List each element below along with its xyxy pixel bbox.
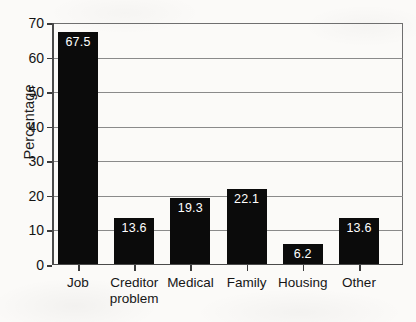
x-axis-line — [52, 264, 403, 266]
bar: 6.2 — [283, 244, 323, 265]
y-axis-tick-label: 50 — [28, 84, 44, 100]
y-axis-tick-label: 40 — [28, 119, 44, 135]
x-axis-category-label-line: problem — [79, 291, 189, 307]
bar-value-label: 13.6 — [339, 221, 379, 235]
x-axis-category-label: Other — [304, 275, 414, 291]
plot-frame-top-border — [52, 23, 403, 24]
y-axis-tick-label: 10 — [28, 222, 44, 238]
x-axis-tick-mark — [359, 265, 361, 271]
bar-value-label: 19.3 — [170, 201, 210, 215]
plot-area: 010203040506070 67.513.619.322.16.213.6 — [52, 23, 403, 265]
gridline — [52, 161, 403, 162]
y-axis-tick-label: 0 — [36, 257, 44, 273]
bar-value-label: 67.5 — [58, 35, 98, 49]
x-axis-tick-mark — [190, 265, 192, 271]
gridline — [52, 58, 403, 59]
y-axis-tick-mark — [47, 265, 52, 267]
plot-frame-right-border — [402, 23, 403, 265]
x-axis-tick-mark — [247, 265, 249, 271]
x-axis-category-label-line: Other — [304, 275, 414, 291]
x-axis-tick-mark — [303, 265, 305, 271]
gridline — [52, 92, 403, 93]
y-axis-line — [52, 23, 54, 265]
bar: 67.5 — [58, 32, 98, 265]
x-axis-tick-mark — [134, 265, 136, 271]
bar-value-label: 13.6 — [114, 221, 154, 235]
bar-value-label: 22.1 — [227, 192, 267, 206]
x-axis-tick-mark — [78, 265, 80, 271]
bar: 13.6 — [114, 218, 154, 265]
gridline — [52, 127, 403, 128]
bar: 22.1 — [227, 189, 267, 265]
bar-chart-figure: Percentage 010203040506070 67.513.619.32… — [0, 0, 416, 322]
y-axis-tick-label: 70 — [28, 15, 44, 31]
y-axis-tick-label: 20 — [28, 188, 44, 204]
bar: 13.6 — [339, 218, 379, 265]
bar-value-label: 6.2 — [283, 247, 323, 261]
bar: 19.3 — [170, 198, 210, 265]
y-axis-tick-label: 30 — [28, 153, 44, 169]
y-axis-tick-label: 60 — [28, 50, 44, 66]
